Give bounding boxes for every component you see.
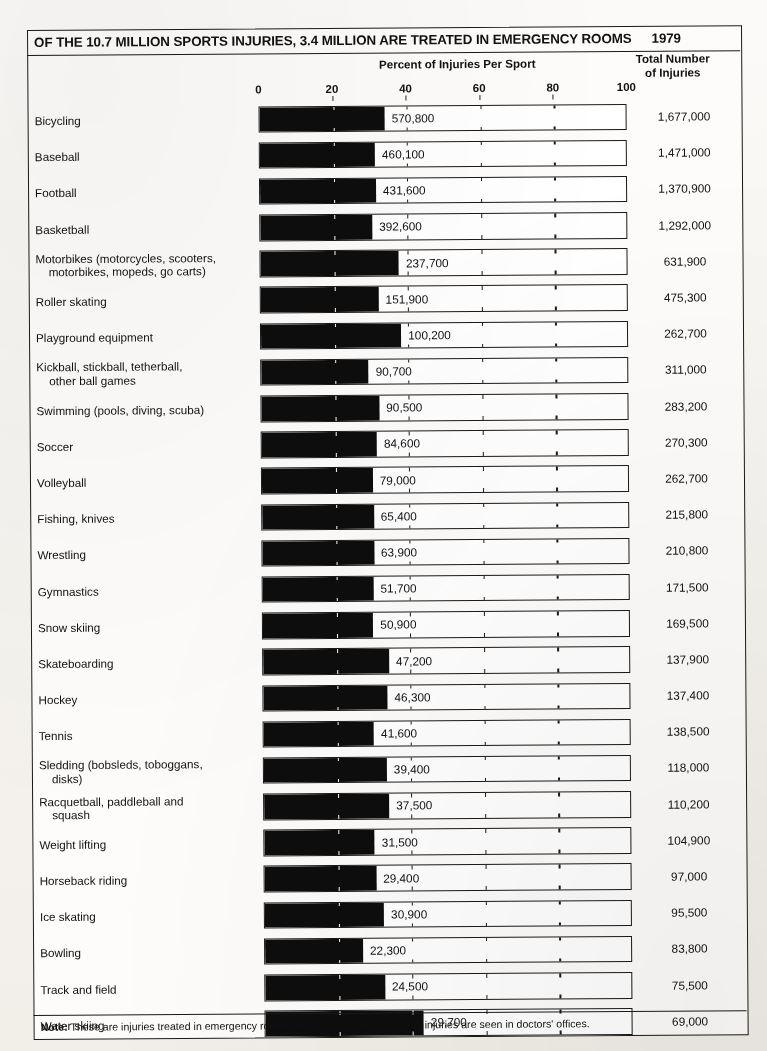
total-injuries-value: 169,500 — [631, 616, 744, 631]
bar-gridtick-top-20 — [334, 286, 335, 291]
bar-gridtick-top-40 — [410, 539, 411, 544]
bar-gridtick-bottom-80 — [558, 741, 559, 746]
bar-gridtick-bottom-20 — [338, 851, 339, 856]
category-label-line1: Roller skating — [36, 295, 107, 308]
chart-row: Snow skiing50,900169,500 — [31, 605, 744, 646]
bar-track: 41,600 — [263, 719, 631, 748]
bar-gridtick-bottom-40 — [409, 525, 410, 530]
bar-track: 100,200 — [260, 321, 628, 350]
bar-track: 90,500 — [260, 393, 628, 422]
category-label-line2: disks) — [39, 771, 254, 786]
bar-gridtick-top-20 — [338, 829, 339, 834]
bar-gridtick-bottom-80 — [555, 198, 556, 203]
total-injuries-value: 311,000 — [629, 363, 742, 378]
bar-track: 237,700 — [259, 248, 627, 277]
bar-gridtick-bottom-80 — [559, 850, 560, 855]
chart-row: Kickball, stickball, tetherball,other ba… — [29, 352, 742, 393]
bar-gridtick-bottom-80 — [560, 994, 561, 999]
bar-gridtick-bottom-80 — [559, 814, 560, 819]
category-label-line1: Soccer — [37, 440, 73, 453]
bar-fill — [260, 106, 385, 131]
category-label-line1: Tennis — [39, 729, 73, 742]
bar-gridtick-bottom-60 — [482, 344, 483, 349]
bar-fill — [263, 685, 387, 710]
bar-gridtick-top-80 — [556, 393, 557, 398]
bar-value-label: 37,500 — [396, 799, 432, 813]
bar-gridtick-top-20 — [333, 105, 334, 110]
category-label: Snow skiing — [38, 619, 253, 634]
bar-gridtick-top-80 — [554, 140, 555, 145]
bar-gridtick-top-80 — [555, 213, 556, 218]
chart-row: Bicycling570,8001,677,000 — [27, 98, 740, 139]
bar-value-label: 22,300 — [370, 944, 406, 958]
category-label-line1: Hockey — [38, 693, 77, 706]
bar-value-label: 570,800 — [392, 111, 435, 125]
bar-gridtick-bottom-80 — [558, 705, 559, 710]
bar-track: 31,500 — [263, 827, 631, 856]
bar-gridtick-bottom-20 — [333, 127, 334, 132]
bar-gridtick-top-40 — [411, 793, 412, 798]
category-label: Horseback riding — [40, 873, 255, 888]
bar-gridtick-top-80 — [554, 176, 555, 181]
bar-gridtick-bottom-80 — [555, 271, 556, 276]
bar-track: 460,100 — [259, 140, 627, 169]
bar-value-label: 47,200 — [396, 654, 432, 668]
bar-gridtick-top-80 — [556, 430, 557, 435]
category-label-line1: Volleyball — [37, 476, 86, 489]
bar-gridtick-bottom-20 — [337, 743, 338, 748]
category-label: Bicycling — [35, 113, 250, 128]
bar-fill — [260, 142, 375, 167]
bar-gridtick-bottom-80 — [559, 922, 560, 927]
bar-value-label: 50,900 — [380, 618, 416, 632]
bar-gridtick-bottom-80 — [557, 560, 558, 565]
chart-row: Track and field24,50075,500 — [33, 967, 746, 1008]
bar-gridtick-bottom-80 — [555, 235, 556, 240]
bar-value-label: 460,100 — [382, 147, 425, 161]
bar-value-label: 151,900 — [385, 292, 428, 306]
category-label-line1: Bowling — [40, 946, 81, 959]
chart-row: Volleyball79,000262,700 — [30, 460, 743, 501]
bar-fill — [265, 902, 384, 927]
x-tick-label-20: 20 — [326, 83, 339, 95]
bar-gridtick-bottom-20 — [338, 887, 339, 892]
bar-gridtick-bottom-40 — [410, 634, 411, 639]
bar-gridtick-top-20 — [336, 467, 337, 472]
category-label: Hockey — [38, 692, 253, 707]
x-tick-label-0: 0 — [255, 83, 261, 95]
category-label: Motorbikes (motorcycles, scooters,motorb… — [35, 251, 250, 280]
bar-gridtick-top-60 — [482, 358, 483, 363]
chart-row: Fishing, knives65,400215,800 — [30, 496, 743, 537]
bar-gridtick-top-40 — [407, 141, 408, 146]
bar-gridtick-bottom-40 — [408, 344, 409, 349]
bar-gridtick-top-60 — [486, 973, 487, 978]
total-injuries-value: 270,300 — [630, 435, 743, 450]
bar-value-label: 237,700 — [406, 256, 449, 270]
bar-gridtick-top-40 — [408, 358, 409, 363]
bar-gridtick-bottom-40 — [408, 272, 409, 277]
bar-gridtick-bottom-60 — [485, 850, 486, 855]
bar-gridtick-bottom-60 — [483, 525, 484, 530]
bar-gridtick-bottom-20 — [336, 562, 337, 567]
bar-gridtick-top-60 — [485, 864, 486, 869]
category-label: Racquetball, paddleball andsquash — [39, 794, 254, 823]
bar-track: 22,300 — [264, 936, 632, 965]
bar-gridtick-top-60 — [485, 792, 486, 797]
total-column-header-line2: of Injuries — [605, 65, 740, 80]
bar-fill — [265, 866, 377, 891]
bar-gridtick-bottom-20 — [339, 960, 340, 965]
bar-gridtick-bottom-40 — [411, 706, 412, 711]
bar-track: 51,700 — [262, 574, 630, 603]
bar-gridtick-top-40 — [410, 648, 411, 653]
footnote-label: Note: — [41, 1021, 68, 1033]
category-label: Tennis — [39, 728, 254, 743]
bar-gridtick-bottom-60 — [485, 778, 486, 783]
category-label-line1: Bicycling — [35, 114, 81, 127]
bar-gridtick-bottom-80 — [556, 379, 557, 384]
bar-fill — [260, 215, 372, 240]
bar-gridtick-top-40 — [411, 756, 412, 761]
bar-gridtick-bottom-20 — [336, 598, 337, 603]
bar-gridtick-top-60 — [483, 466, 484, 471]
bar-gridtick-bottom-40 — [413, 995, 414, 1000]
bar-gridtick-bottom-80 — [555, 343, 556, 348]
bar-gridtick-top-20 — [339, 974, 340, 979]
